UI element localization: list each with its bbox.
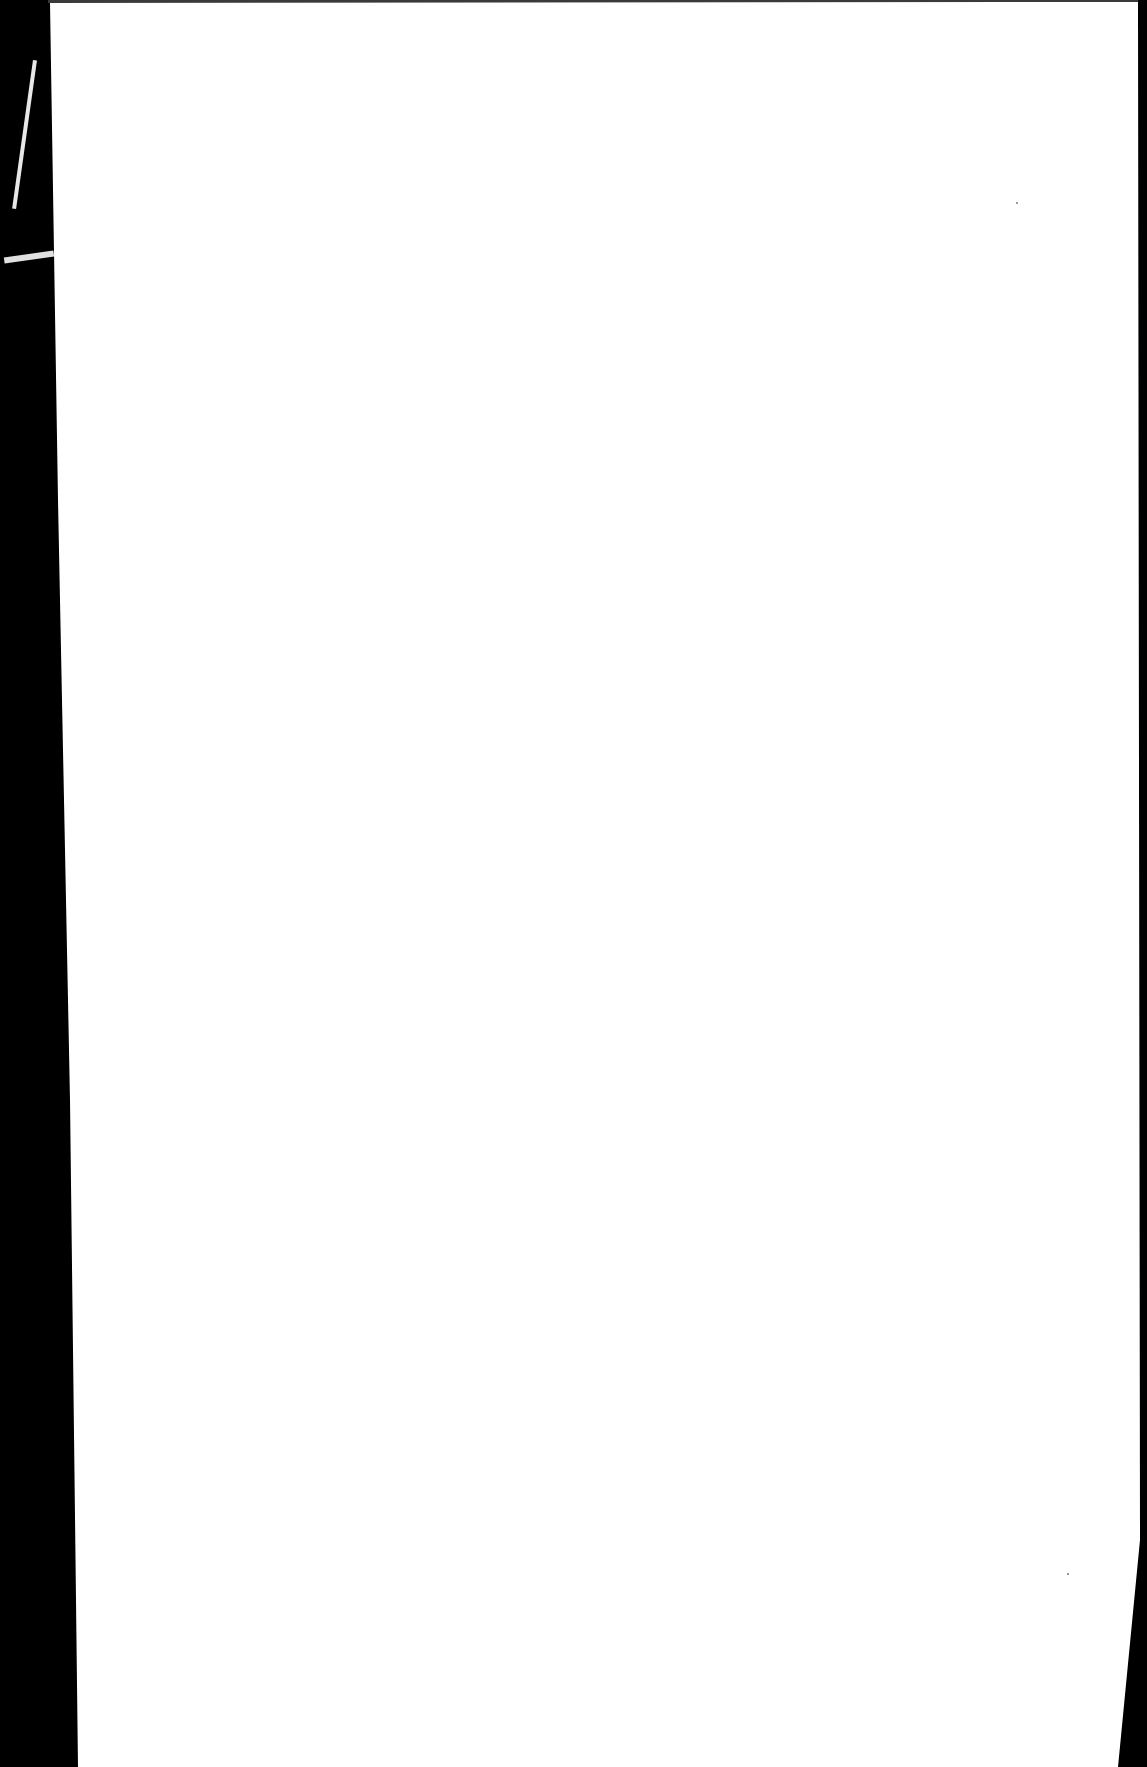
dust-speck: [1067, 1573, 1069, 1575]
dust-speck: [1016, 202, 1018, 204]
blank-page: [0, 0, 1147, 1767]
